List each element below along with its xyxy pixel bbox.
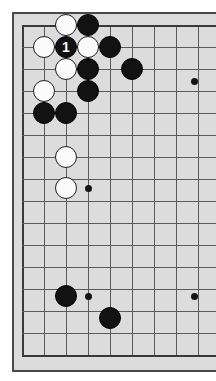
white-stone[interactable] [77, 36, 99, 58]
move-number-label: 1 [62, 40, 70, 54]
board-stones: 1 [0, 0, 216, 381]
white-stone[interactable] [55, 58, 77, 80]
white-stone[interactable] [55, 146, 77, 168]
black-stone[interactable] [99, 36, 121, 58]
black-stone[interactable] [77, 58, 99, 80]
black-stone[interactable] [77, 80, 99, 102]
black-stone[interactable] [33, 102, 55, 124]
black-stone[interactable] [55, 285, 77, 307]
white-stone[interactable] [33, 36, 55, 58]
white-stone[interactable] [33, 80, 55, 102]
go-board-diagram: 1 [0, 0, 216, 381]
black-stone[interactable] [55, 102, 77, 124]
white-stone[interactable] [55, 177, 77, 199]
white-stone[interactable] [55, 14, 77, 36]
black-stone[interactable] [77, 14, 99, 36]
black-stone[interactable]: 1 [55, 36, 77, 58]
black-stone[interactable] [121, 58, 143, 80]
black-stone[interactable] [99, 307, 121, 329]
